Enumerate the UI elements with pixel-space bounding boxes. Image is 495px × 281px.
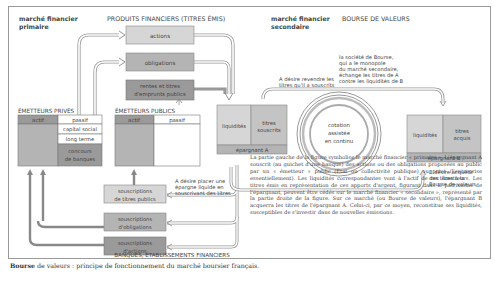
svg-text:marché financier: marché financier <box>271 15 331 22</box>
bourse-title: BOURSE DE VALEURS <box>342 15 410 22</box>
arrow-up-icon <box>40 169 46 175</box>
svg-text:souscrivant des titres: souscrivant des titres <box>175 190 231 196</box>
explanation-text: La partie gauche de la figure symbolise … <box>250 154 482 216</box>
annotation-societe: la société de Bourse, qui a le monopole … <box>339 54 404 85</box>
private-issuers-title: ÉMETTEURS PRIVÉS <box>18 107 75 114</box>
public-balance-sheet: actif passif <box>115 115 200 166</box>
svg-text:primaire: primaire <box>19 23 49 31</box>
arrow-icon <box>119 58 125 66</box>
svg-text:souscrits: souscrits <box>257 127 281 133</box>
svg-text:obligations: obligations <box>145 60 176 67</box>
svg-text:liquidités: liquidités <box>222 123 246 130</box>
product-rentes: rentes et titres d'emprunts publics <box>126 80 194 100</box>
product-actions: actions <box>126 26 194 44</box>
figure-frame: marché financier primaire PRODUITS FINAN… <box>8 6 491 259</box>
arrow-down-icon <box>225 93 233 100</box>
subscription-public: souscriptions de titres publics <box>104 185 166 203</box>
svg-text:d'obligations: d'obligations <box>118 224 151 231</box>
svg-text:contre les liquidités de B: contre les liquidités de B <box>339 78 404 85</box>
svg-text:en continu: en continu <box>325 138 354 144</box>
primary-market-label: marché financier primaire <box>19 15 79 31</box>
svg-text:actif: actif <box>128 117 140 123</box>
svg-text:marché financier: marché financier <box>19 15 79 22</box>
svg-text:titres: titres <box>262 120 276 126</box>
svg-text:de titres publics: de titres publics <box>114 196 156 203</box>
arrow-icon <box>119 31 125 39</box>
annotation-a-resell: A désire revendre les titres qu'il a sou… <box>279 76 335 89</box>
svg-text:actif: actif <box>32 117 44 123</box>
figure-caption: Bourse de valeurs : principe de fonction… <box>10 262 259 269</box>
svg-text:épargnant A: épargnant A <box>236 147 269 154</box>
svg-text:souscriptions: souscriptions <box>118 188 153 195</box>
svg-text:liquidités: liquidités <box>413 132 437 139</box>
products-title: PRODUITS FINANCIERS (TITRES ÉMIS) <box>107 15 225 22</box>
subscription-obligations: souscriptions d'obligations <box>104 213 166 231</box>
saver-a-box: liquidités titres souscrits épargnant A <box>217 105 287 154</box>
public-issuers-title: ÉMETTEURS PUBLICS <box>115 107 175 114</box>
svg-text:actions: actions <box>150 33 170 39</box>
annotation-a-place: A désire placer une épargne liquide en s… <box>175 178 231 196</box>
svg-text:souscriptions: souscriptions <box>118 216 153 223</box>
svg-text:assistée: assistée <box>328 130 351 136</box>
svg-text:passif: passif <box>169 117 185 124</box>
market-diagram: marché financier primaire PRODUITS FINAN… <box>9 7 490 258</box>
svg-text:secondaire: secondaire <box>271 23 309 30</box>
product-obligations: obligations <box>126 53 194 71</box>
svg-text:acquis: acquis <box>453 135 470 142</box>
svg-text:rentes et titres: rentes et titres <box>140 83 180 89</box>
banks-label: BANQUES, ÉTABLISSEMENTS FINANCIERS <box>114 251 230 258</box>
arrow-up-icon <box>131 169 137 175</box>
svg-text:souscriptions: souscriptions <box>118 240 153 247</box>
caption-rest: de valeurs : principe de fonctionnement … <box>35 262 259 269</box>
subscription-flow-lines <box>30 173 134 245</box>
caption-bold: Bourse <box>10 262 35 269</box>
svg-text:passif: passif <box>72 117 88 124</box>
svg-text:concours: concours <box>68 148 92 154</box>
svg-text:d'emprunts publics: d'emprunts publics <box>134 91 186 98</box>
arrow-up-icon <box>27 169 33 175</box>
svg-text:cotation: cotation <box>328 122 350 128</box>
secondary-market-label: marché financier secondaire <box>271 15 331 30</box>
svg-text:capital social: capital social <box>63 126 97 133</box>
svg-text:titres: titres <box>455 128 469 134</box>
svg-text:long terme: long terme <box>66 136 94 143</box>
private-balance-sheet: actif passif capital social long terme c… <box>18 115 102 166</box>
svg-text:de banques: de banques <box>65 156 96 163</box>
